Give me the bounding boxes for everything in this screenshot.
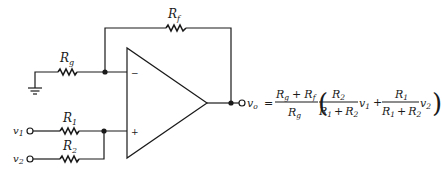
terminal-v1 (27, 128, 33, 134)
junction-noninverting (101, 128, 106, 133)
resistor-r2 (60, 156, 79, 162)
junction-inverting (102, 69, 107, 74)
frac1-denominator: Rg (287, 106, 301, 120)
resistor-rg (58, 69, 77, 75)
ground-icon (28, 88, 42, 94)
frac1-numerator: Rg+Rf (275, 88, 317, 102)
terminal-vo (239, 100, 245, 106)
frac2-denominator: R1+R2 (318, 105, 359, 119)
svg-text:v2: v2 (420, 97, 431, 111)
frac2-numerator: R2 (331, 88, 345, 102)
noninverting-sign: + (131, 127, 139, 137)
svg-text:vo: vo (247, 97, 258, 111)
rg-branch (35, 69, 127, 88)
svg-text:+: + (373, 96, 382, 109)
frac3-denominator: R1+R2 (381, 105, 422, 119)
label-v2: v2 (13, 153, 24, 166)
junction-output (228, 100, 233, 105)
frac3-numerator: R1 (394, 88, 408, 102)
circuit-diagram: Rf Rg − + R1 R2 v1 v2 (0, 0, 442, 179)
opamp-triangle (127, 48, 207, 158)
resistor-rf (166, 25, 186, 31)
terminal-v2 (27, 156, 33, 162)
resistor-r1 (60, 128, 79, 134)
svg-text:=: = (264, 97, 273, 110)
label-rg: Rg (59, 51, 74, 67)
label-v1: v1 (13, 125, 24, 138)
svg-text:): ) (432, 88, 442, 118)
inverting-sign: − (131, 68, 139, 78)
output-equation: vo = Rg+Rf Rg ( R2 R1+R2 v1 + R1 R1+R (247, 88, 442, 120)
label-rf: Rf (167, 7, 182, 23)
label-r2: R2 (62, 139, 77, 155)
svg-text:v1: v1 (359, 97, 370, 111)
label-r1: R1 (62, 111, 77, 127)
input-v1-branch (33, 128, 127, 134)
